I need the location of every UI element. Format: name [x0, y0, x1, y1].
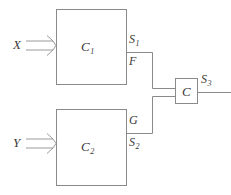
signal-label-s2-subscript: 2: [136, 142, 140, 151]
signal-label-f: F: [129, 55, 136, 67]
input-label-y: Y: [13, 136, 20, 149]
signal-label-s2: S2: [129, 136, 139, 148]
block-label-c2: C2: [81, 140, 94, 153]
signal-label-s1: S1: [129, 33, 139, 45]
input-arrow-x-tip-lower: [53, 46, 56, 51]
input-arrow-y-tip-upper: [53, 139, 56, 144]
block-label-c1-subscript: 1: [90, 47, 94, 56]
block-label-c: C: [182, 85, 191, 98]
input-arrow-y-lower: [26, 148, 53, 154]
signal-label-s3: S3: [201, 73, 211, 85]
input-label-x: X: [13, 38, 21, 51]
input-arrow-y-upper: [26, 134, 53, 140]
input-arrow-x-upper: [26, 36, 53, 42]
block-label-c1: C1: [81, 40, 94, 53]
block-label-c2-subscript: 2: [90, 147, 94, 156]
block-diagram-canvas: X Y C1 C2 C S1 F G S2 S3: [0, 0, 231, 195]
signal-label-s1-subscript: 1: [136, 39, 140, 48]
input-arrow-y-tip-lower: [53, 144, 56, 149]
signal-label-g: G: [129, 114, 138, 126]
diagram-lines-layer: [0, 0, 231, 195]
input-arrow-x-lower: [26, 50, 53, 56]
signal-label-s3-subscript: 3: [208, 79, 212, 88]
input-arrow-x-tip-upper: [53, 41, 56, 46]
